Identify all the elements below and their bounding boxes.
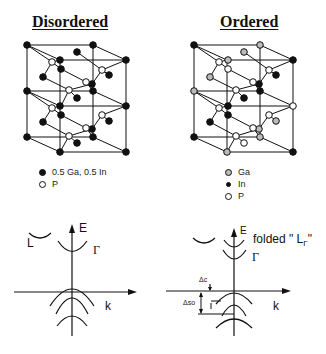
legend-label: 0.5 Ga, 0.5 In <box>52 166 107 178</box>
legend-item-p: P <box>39 178 107 190</box>
energy-axis-label: E <box>240 225 247 236</box>
legend-item-ga-in: 0.5 Ga, 0.5 In <box>39 166 107 178</box>
open-circle-icon <box>225 193 232 200</box>
legend-item-in: In <box>225 178 250 190</box>
legend-label: Ga <box>238 166 250 178</box>
black-circle-icon <box>39 169 46 176</box>
folded-label-close-quote: " <box>308 232 312 246</box>
legend-label: In <box>238 178 246 190</box>
legend-item-p: P <box>225 190 250 202</box>
legend-item-ga: Ga <box>225 166 250 178</box>
ordered-legend: Ga In P <box>225 166 250 202</box>
folded-l-gamma-label: folded " LΓ" <box>253 232 312 248</box>
hatched-circle-icon <box>225 169 232 176</box>
momentum-axis-label: k <box>273 299 279 313</box>
momentum-axis-label: k <box>105 299 111 313</box>
folded-label-text: folded " L <box>253 232 303 246</box>
l-valley-label: L <box>27 236 34 250</box>
black-circle-icon <box>226 182 231 187</box>
disordered-legend: 0.5 Ga, 0.5 In P <box>39 166 107 190</box>
energy-axis-label: E <box>79 221 87 235</box>
delta-so-label: Δso <box>183 299 195 306</box>
legend-label: P <box>238 190 244 202</box>
delta-c-label: Δc <box>199 276 207 283</box>
gamma-valley-label: Γ <box>93 243 100 258</box>
legend-label: P <box>52 178 58 190</box>
gamma-valley-label: Γ <box>252 250 259 265</box>
open-circle-icon <box>39 181 46 188</box>
